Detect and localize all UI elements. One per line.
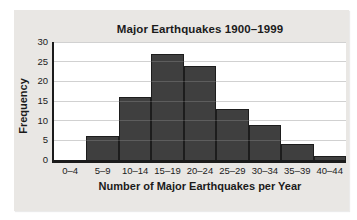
x-tick-label: 20–24 — [184, 165, 216, 176]
x-tick-label: 10–14 — [119, 165, 151, 176]
x-tick-label: 35–39 — [281, 165, 313, 176]
chart-title: Major Earthquakes 1900–1999 — [54, 23, 346, 35]
x-axis-tick-labels: 0–45–910–1415–1920–2425–2930–3435–3940–4… — [54, 165, 346, 176]
y-axis-line — [52, 42, 54, 163]
bar-35–39 — [281, 144, 313, 160]
x-tick-label: 5–9 — [86, 165, 118, 176]
y-tick-label: 15 — [14, 95, 48, 107]
gridline-overlay — [54, 140, 346, 141]
bar-25–29 — [216, 109, 248, 160]
gridline-overlay — [54, 120, 346, 121]
gridline-overlay — [54, 61, 346, 62]
plot-area — [54, 42, 346, 160]
x-tick-label: 25–29 — [216, 165, 248, 176]
bar-30–34 — [249, 125, 281, 160]
x-tick-label: 15–19 — [151, 165, 183, 176]
gridline-overlay — [54, 101, 346, 102]
x-tick-label: 30–34 — [249, 165, 281, 176]
bar-20–24 — [184, 66, 216, 160]
gridline-overlay — [54, 42, 346, 43]
screenshot-root: Major Earthquakes 1900–1999 Frequency 05… — [0, 0, 357, 220]
y-tick-label: 25 — [14, 56, 48, 68]
y-tick-label: 10 — [14, 115, 48, 127]
y-tick-label: 5 — [14, 134, 48, 146]
bar-10–14 — [119, 97, 151, 160]
x-tick-label: 0–4 — [54, 165, 86, 176]
bar-40–44 — [314, 156, 346, 160]
gridline-overlay — [54, 81, 346, 82]
chart-panel: Major Earthquakes 1900–1999 Frequency 05… — [14, 10, 349, 211]
x-axis-line — [52, 160, 346, 163]
x-tick-label: 40–44 — [314, 165, 346, 176]
y-tick-label: 30 — [14, 36, 48, 48]
bar-15–19 — [151, 54, 183, 160]
x-axis-title: Number of Major Earthquakes per Year — [54, 180, 346, 192]
y-tick-label: 20 — [14, 75, 48, 87]
y-tick-label: 0 — [14, 154, 48, 166]
